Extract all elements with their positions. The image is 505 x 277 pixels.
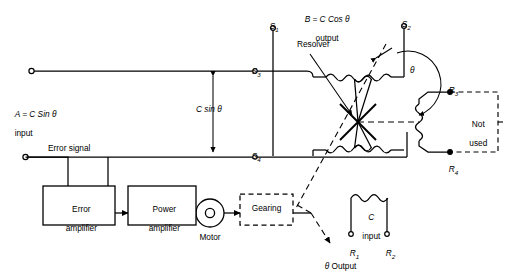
terminal-label-r3: R3 [444,76,458,97]
not-used-line1: Not [472,119,485,129]
theta-angle-label: θ [410,66,415,76]
error-amplifier-line2: amplifier [66,223,97,233]
resolver-leader [310,54,352,115]
input-a-sublabel: input [15,128,33,138]
theta-axis-pointer [376,48,392,58]
shaft-split-dashed [297,205,330,243]
theta-output-word: Output [331,261,356,271]
diagram-canvas: A = C Sin θ input B = C Cos θ output Res… [0,0,505,277]
resolver-label: Resolver [297,40,330,50]
power-amplifier-line2: amplifier [149,223,180,233]
not-used-line2: used [469,138,487,148]
c-input-line2: input [362,231,380,241]
error-amplifier-label: Error amplifier [50,195,108,234]
c-input-label: C input [352,203,386,242]
not-used-coil [416,92,450,152]
wire-s3-to-stator [255,71,313,77]
motor-shaft-dot [205,208,214,217]
c-sin-theta-label: C sin θ [196,105,222,115]
terminal-label-r4: R4 [444,155,458,176]
wire-error-signal-drop [26,157,109,186]
terminal-label-s2: S2 [397,10,411,31]
input-a-label: A = C Sin θ input [10,100,56,139]
gearing-label: Gearing [241,204,292,214]
output-b-expression: B = C Cos θ [305,14,350,24]
error-amplifier-line1: Error [72,204,90,214]
not-used-label: Not used [459,110,493,149]
terminal-label-s1: S1 [265,12,279,33]
diagram-vector-layer [0,0,505,277]
error-signal-label: Error signal [48,144,90,154]
terminal-input-a [29,68,34,73]
terminal-label-s3: S3 [247,57,261,78]
terminal-label-r1: R1 [345,239,359,260]
terminal-label-s4: S4 [247,142,261,163]
input-a-expression: A = C Sin θ [15,109,57,119]
rotor-axis-dashed [295,44,386,210]
power-amplifier-label: Power amplifier [134,195,190,234]
c-input-line1: C [368,212,374,222]
motor-label: Motor [191,233,229,243]
stator-coil-upper-left [313,74,372,122]
power-amplifier-line1: Power [153,204,177,214]
stator-coil-upper-right [355,68,405,122]
terminal-label-r2: R2 [381,239,395,260]
